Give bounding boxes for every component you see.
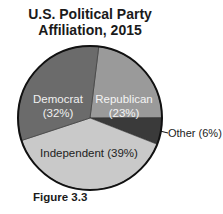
democrat-label: Democrat [33, 93, 84, 105]
independent-label: Independent (39%) [40, 147, 138, 159]
republican-label: Republican [95, 93, 153, 105]
republican-percent: (23%) [109, 107, 140, 119]
pie-chart: Democrat (32%) Republican (23%) Independ… [0, 0, 223, 214]
democrat-percent: (32%) [43, 107, 74, 119]
figure-caption: Figure 3.3 [33, 191, 87, 203]
other-label: Other (6%) [168, 127, 222, 139]
